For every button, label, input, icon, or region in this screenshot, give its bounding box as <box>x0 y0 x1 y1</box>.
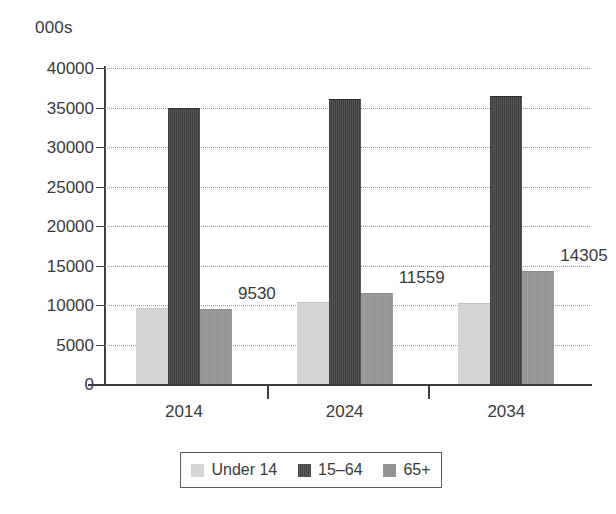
bar-2024-15-64 <box>329 99 361 384</box>
y-axis-tick-label: 15000 <box>47 257 94 274</box>
y-axis-tick-label: 30000 <box>47 139 94 156</box>
bar-value-label: 9530 <box>238 285 276 302</box>
legend-item-under-14[interactable]: Under 14 <box>191 462 277 478</box>
bar-2014-65- <box>200 309 232 384</box>
legend-item-15-64[interactable]: 15–64 <box>298 462 363 478</box>
x-axis-tick-mark <box>428 386 430 399</box>
chart-legend: Under 1415–6465+ <box>180 452 442 488</box>
x-axis-category-label: 2014 <box>165 402 203 422</box>
y-axis-tick-label: 35000 <box>47 99 94 116</box>
bar-2034-15-64 <box>490 96 522 384</box>
bar-2024-65- <box>361 293 393 384</box>
bar-2014-15-64 <box>168 108 200 385</box>
y-axis-tick-label: 10000 <box>47 297 94 314</box>
legend-item-65-[interactable]: 65+ <box>383 462 430 478</box>
legend-item-label: 15–64 <box>318 462 363 478</box>
legend-swatch-15-64-icon <box>298 464 311 477</box>
bar-chart: 000s 40000350003000025000200001500010000… <box>0 0 616 514</box>
y-axis-tick-label: 5000 <box>56 336 94 353</box>
bar-group-2014: 9530 <box>136 68 232 384</box>
bar-group-2034: 14305 <box>458 68 554 384</box>
plot-area: 95301155914305 <box>105 68 590 384</box>
x-axis-line <box>88 384 592 386</box>
y-axis-tick-label: 40000 <box>47 60 94 77</box>
y-axis-labels: 4000035000300002500020000150001000050000 <box>0 68 94 384</box>
legend-swatch-65-plus-icon <box>383 464 396 477</box>
bar-group-2024: 11559 <box>297 68 393 384</box>
y-axis-tick-label: 25000 <box>47 178 94 195</box>
y-axis-unit-caption: 000s <box>35 18 73 38</box>
bar-2024-under-14 <box>297 302 329 384</box>
legend-item-label: 65+ <box>403 462 430 478</box>
x-axis-category-label: 2024 <box>326 402 364 422</box>
bar-value-label: 14305 <box>560 247 607 264</box>
bar-value-label: 11559 <box>399 269 445 286</box>
y-axis-tick-label: 20000 <box>47 218 94 235</box>
bar-2034-65- <box>522 271 554 384</box>
x-axis-category-label: 2034 <box>487 402 525 422</box>
bar-2014-under-14 <box>136 308 168 384</box>
bar-2034-under-14 <box>458 303 490 384</box>
x-axis-tick-mark <box>267 386 269 399</box>
legend-item-label: Under 14 <box>211 462 277 478</box>
legend-swatch-under-14-icon <box>191 464 204 477</box>
